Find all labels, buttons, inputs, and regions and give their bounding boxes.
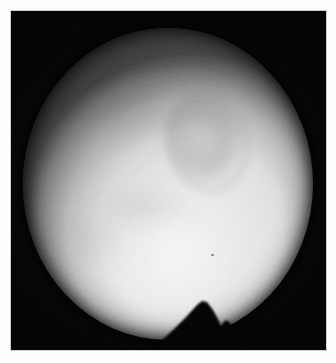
limb-darkening-overlay <box>23 28 313 340</box>
planetary-disk <box>23 28 313 340</box>
image-field <box>11 11 326 350</box>
plate-speck-secondary-icon <box>74 28 76 30</box>
planetary-disk-group <box>11 11 326 350</box>
page-root <box>0 0 336 363</box>
